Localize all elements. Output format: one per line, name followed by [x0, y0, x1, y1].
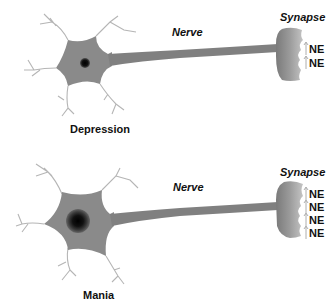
release-arrows — [304, 42, 308, 69]
neuron-mania — [16, 164, 308, 284]
nerve-label: Nerve — [172, 27, 203, 38]
ne-label: NE — [309, 44, 324, 55]
synapse-terminal — [276, 28, 303, 81]
axon — [110, 202, 278, 226]
ne-label: NE — [309, 58, 324, 69]
axon — [108, 44, 278, 66]
synapse-terminal — [276, 181, 303, 238]
synapse-label: Synapse — [280, 167, 325, 178]
ne-label: NE — [309, 228, 324, 239]
neuron-diagram — [0, 0, 336, 305]
ne-label: NE — [309, 189, 324, 200]
ne-label: NE — [309, 202, 324, 213]
nucleus — [66, 209, 90, 233]
neuron-depression — [24, 14, 308, 116]
release-arrows — [304, 187, 308, 239]
state-label-depression: Depression — [70, 124, 130, 135]
ne-label: NE — [309, 215, 324, 226]
nucleus — [80, 58, 90, 68]
synapse-label: Synapse — [280, 12, 325, 23]
state-label-mania: Mania — [83, 290, 114, 301]
nerve-label: Nerve — [173, 182, 204, 193]
